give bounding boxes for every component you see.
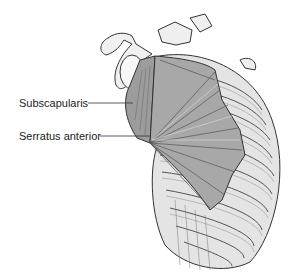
serratus-anterior-label: Serratus anterior (19, 130, 101, 142)
subscapularis-label: Subscapularis (19, 97, 88, 109)
